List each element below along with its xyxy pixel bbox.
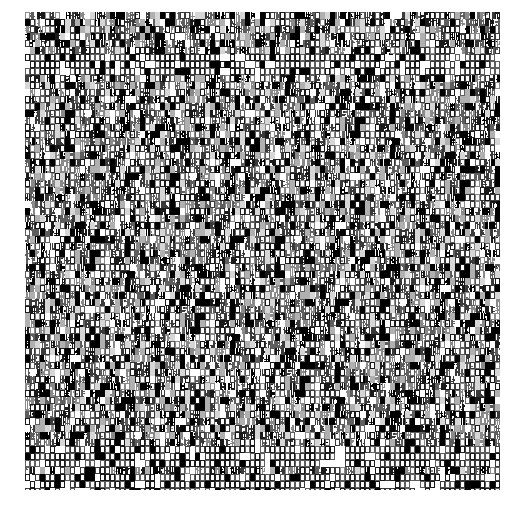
glyph-noise-field (25, 12, 500, 490)
glyph-noise-canvas (25, 12, 500, 490)
